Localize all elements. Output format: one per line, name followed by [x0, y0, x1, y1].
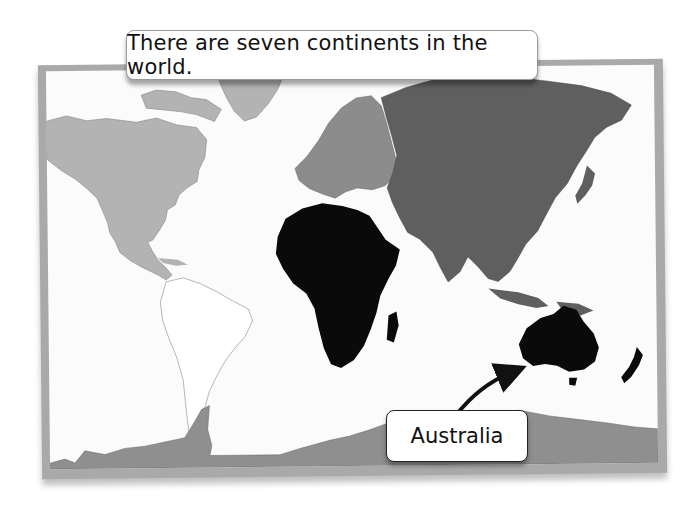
- new-zealand: [621, 347, 643, 383]
- title-banner: There are seven continents in the world.: [126, 30, 538, 80]
- continent-europe: [294, 96, 397, 199]
- continent-asia: [381, 73, 633, 283]
- continent-australia: [518, 305, 599, 372]
- world-map: [46, 65, 658, 469]
- continent-north-america-arctic: [141, 89, 221, 122]
- japan: [575, 165, 595, 203]
- continent-north-america: [46, 115, 208, 282]
- australia-label: Australia: [411, 424, 504, 448]
- continent-antarctica: [49, 401, 658, 469]
- madagascar: [386, 312, 398, 343]
- australia-callout: Australia: [386, 410, 528, 462]
- continent-africa: [275, 203, 401, 369]
- tasmania: [569, 378, 577, 386]
- title-text: There are seven continents in the world.: [127, 31, 537, 79]
